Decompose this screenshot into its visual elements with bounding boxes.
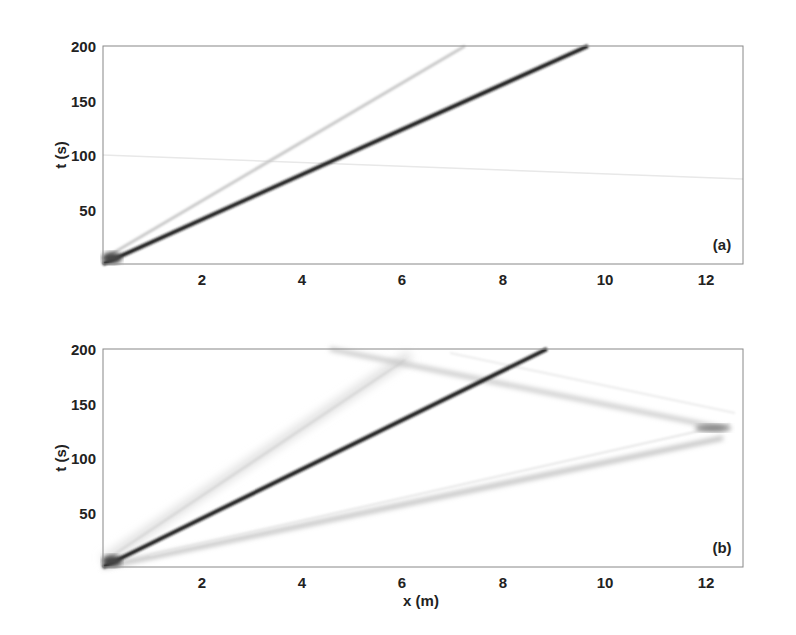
x-tick: 12 [698,574,715,591]
y-axis-label: t (s) [52,444,69,472]
y-tick: 200 [71,341,96,358]
y-tick-labels: 200 150 100 50 [71,38,96,219]
x-tick: 8 [499,271,507,288]
x-tick: 12 [698,271,715,288]
x-tick: 2 [198,271,206,288]
x-tick: 10 [597,271,614,288]
x-tick: 10 [597,574,614,591]
y-tick: 50 [79,505,96,522]
panel-b: 200 150 100 50 2 4 6 8 10 12 x (m) t (s)… [0,300,796,635]
x-tick: 6 [398,574,406,591]
x-tick: 4 [298,271,307,288]
origin-spot [102,555,122,567]
panel-label: (b) [712,539,731,556]
panel-a-plot: 200 150 100 50 2 4 6 8 10 12 t (s) (a) [0,0,796,300]
y-tick: 150 [71,93,96,110]
origin-spot [102,252,122,264]
primary-front [103,349,547,567]
faint-line [103,155,743,179]
y-tick: 100 [71,450,96,467]
axes-frame [103,46,743,264]
y-axis-label: t (s) [52,141,69,169]
y-tick-labels: 200 150 100 50 [71,341,96,522]
y-tick: 200 [71,38,96,55]
x-tick: 6 [398,271,406,288]
x-tick: 4 [298,574,307,591]
panel-b-plot: 200 150 100 50 2 4 6 8 10 12 x (m) t (s)… [0,300,796,635]
plot-area [102,46,743,264]
x-axis-label: x (m) [403,592,439,609]
reflection-spot [695,424,731,432]
plot-area [102,349,735,567]
x-tick-labels: 2 4 6 8 10 12 [198,574,715,591]
panel-label: (a) [713,236,731,253]
x-tick-labels: 2 4 6 8 10 12 [198,271,715,288]
y-tick: 100 [71,147,96,164]
panel-a: 200 150 100 50 2 4 6 8 10 12 t (s) (a) [0,0,796,300]
x-tick: 8 [499,574,507,591]
faint-slow-front [150,424,730,555]
secondary-front [103,46,465,259]
primary-front [103,46,588,264]
axes-frame [103,349,743,567]
y-tick: 50 [79,202,96,219]
y-tick: 150 [71,396,96,413]
x-tick: 2 [198,574,206,591]
